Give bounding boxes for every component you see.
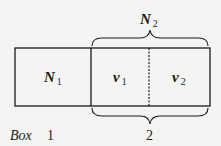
box-1-number: 1 [47, 129, 54, 143]
label-v2-sub: 2 [181, 76, 186, 87]
bottom-brace [92, 108, 208, 124]
label-n1: N1 [44, 70, 62, 87]
label-v1: v1 [113, 70, 127, 87]
box-2-number: 2 [146, 129, 153, 143]
label-n2: N2 [140, 12, 158, 29]
diagram-stage: N2 N1 v1 v2 Box 1 2 [0, 0, 221, 146]
label-v2-main: v [172, 69, 179, 85]
label-n1-sub: 1 [57, 76, 62, 87]
label-n1-main: N [44, 69, 55, 85]
label-n2-sub: 2 [153, 18, 158, 29]
top-brace [92, 30, 208, 46]
box-word-label: Box [10, 129, 32, 143]
label-n2-main: N [140, 11, 151, 27]
diagram-lines [0, 0, 221, 146]
label-v1-sub: 1 [122, 76, 127, 87]
label-v1-main: v [113, 69, 120, 85]
label-v2: v2 [172, 70, 186, 87]
